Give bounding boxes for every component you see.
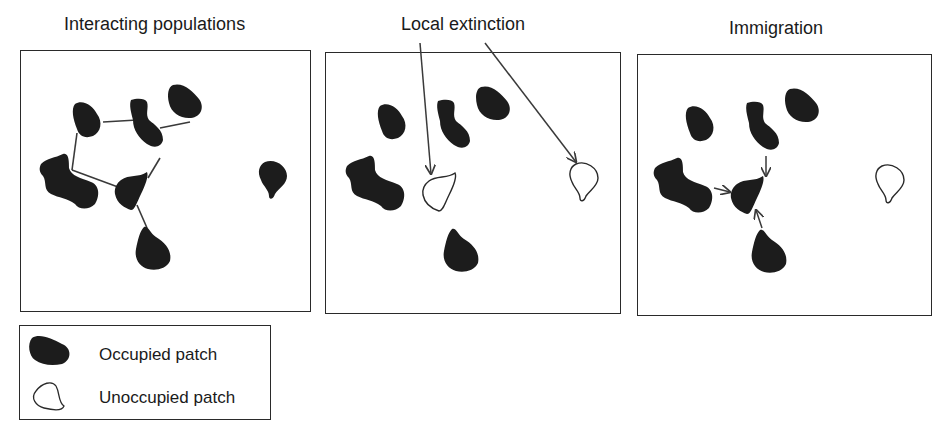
metapopulation-diagram <box>0 0 952 446</box>
occupied-patches-panel1 <box>40 84 287 269</box>
occupied-patches-panel2 <box>346 86 510 271</box>
legend-unoccupied-label: Unoccupied patch <box>99 388 235 408</box>
unoccupied-patches-panel3 <box>876 165 904 203</box>
unoccupied-patch-icon <box>34 383 64 410</box>
occupied-patches-panel3 <box>654 88 819 272</box>
legend-occupied-label: Occupied patch <box>99 345 217 365</box>
occupied-patch-icon <box>29 336 69 365</box>
unoccupied-patches-panel2 <box>423 163 598 211</box>
